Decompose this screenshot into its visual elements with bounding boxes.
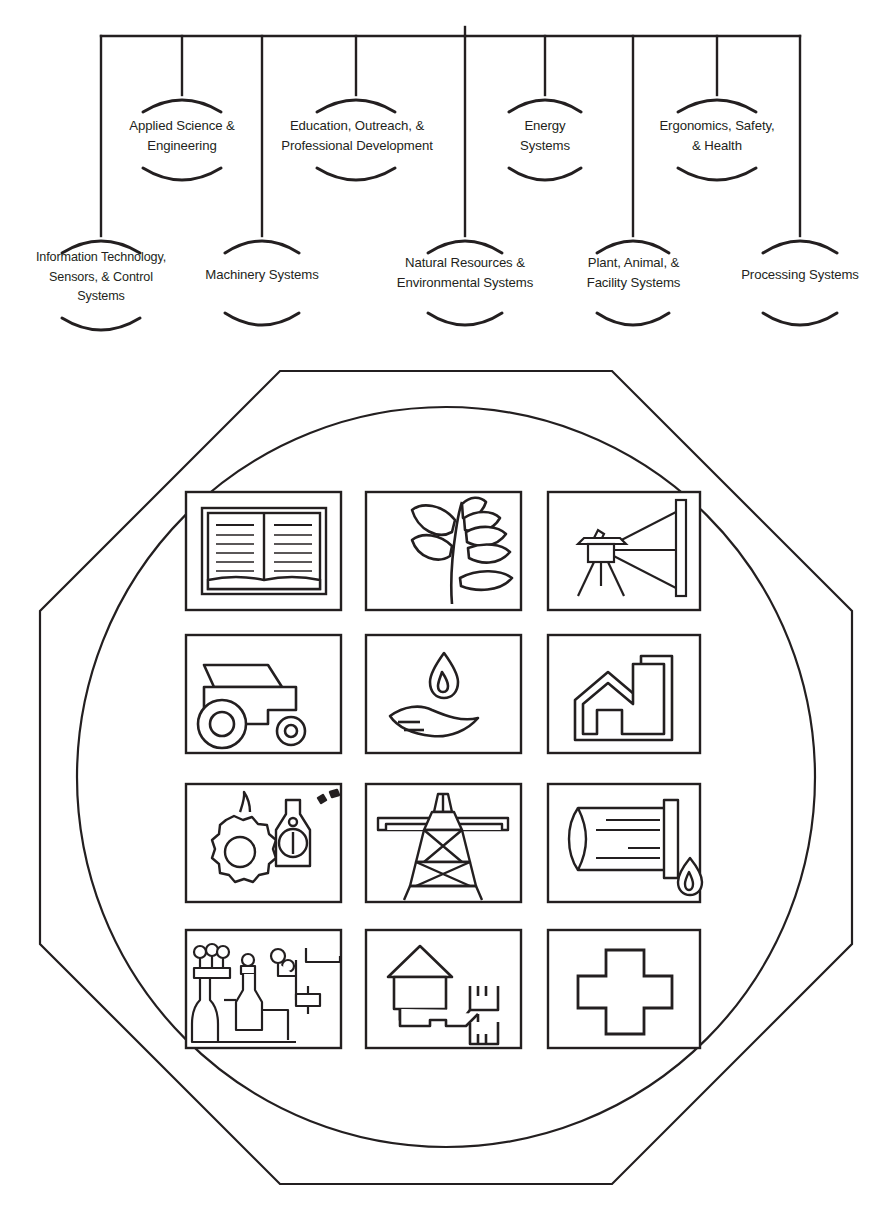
icon-cell-open-book xyxy=(186,492,341,610)
icon-cell-laboratory-apparatus xyxy=(186,930,341,1048)
diagram-canvas: Applied Science & Engineering Education,… xyxy=(0,0,891,1226)
icon-cell-water-drop-hand xyxy=(366,635,521,753)
icon-cell-gear-machinery xyxy=(186,784,341,902)
icon-grid xyxy=(0,0,891,1226)
icon-cell-plant-leaves xyxy=(366,492,521,610)
icon-cell-transmission-tower xyxy=(366,784,521,902)
icon-cell-grain-roller xyxy=(548,784,702,902)
icon-cell-survey-instrument xyxy=(548,492,700,610)
icon-cell-medical-cross xyxy=(548,930,700,1048)
icon-cell-tractor xyxy=(186,635,341,753)
icon-cell-farm-shed-piping xyxy=(366,930,521,1048)
icon-cell-factory-building xyxy=(548,635,700,753)
